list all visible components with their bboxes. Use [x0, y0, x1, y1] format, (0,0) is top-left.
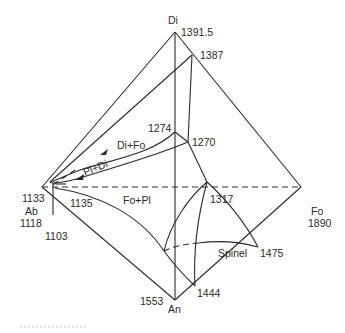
label-fo: Fo — [311, 205, 323, 217]
label-1103: 1103 — [45, 230, 68, 242]
label-an: An — [168, 303, 181, 315]
label-1274: 1274 — [148, 122, 172, 134]
line-1387-ab — [50, 55, 192, 182]
curve-1274-ab — [50, 132, 175, 183]
labels: Di 1391.5 1387 1274 1270 Di+Fo Pl+Di 113… — [20, 14, 332, 315]
label-1890: 1890 — [308, 217, 332, 229]
line-1387-1270 — [188, 55, 192, 142]
curve-inner-1317 — [164, 182, 207, 251]
label-1475: 1475 — [260, 247, 284, 259]
arrow-icon — [100, 149, 108, 155]
edge-di-ab — [42, 32, 175, 187]
label-1553: 1553 — [140, 295, 164, 307]
label-1391: 1391.5 — [181, 26, 213, 38]
edge-di-fo — [175, 32, 301, 187]
label-1270: 1270 — [192, 136, 216, 148]
curve-1317-1475 — [207, 182, 258, 247]
line-1270-1317 — [188, 142, 207, 182]
label-spinel: Spinel — [218, 247, 247, 259]
curve-inner-1444 — [164, 251, 195, 286]
label-1317: 1317 — [210, 193, 234, 205]
label-fo-pl: Fo+Pl — [123, 194, 151, 206]
label-di-fo: Di+Fo — [117, 139, 145, 151]
label-ab: Ab — [25, 205, 38, 217]
phase-diagram: Di 1391.5 1387 1274 1270 Di+Fo Pl+Di 113… — [0, 0, 345, 333]
label-pl-di: Pl+Di — [81, 157, 109, 178]
arrow-icon — [75, 174, 84, 180]
curve-1317-1444 — [195, 182, 207, 286]
label-di: Di — [168, 14, 178, 26]
label-1118: 1118 — [20, 217, 42, 229]
curve-hidden-spinel — [164, 243, 198, 251]
label-1135: 1135 — [70, 197, 93, 209]
label-1444: 1444 — [197, 287, 221, 299]
label-1387: 1387 — [200, 49, 224, 61]
label-1133: 1133 — [22, 192, 45, 204]
line-1274-1270 — [175, 132, 188, 142]
